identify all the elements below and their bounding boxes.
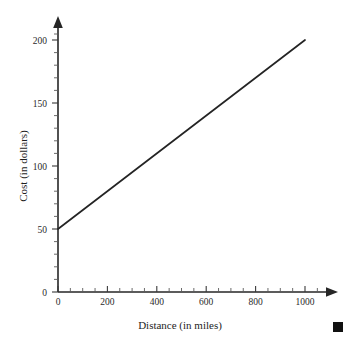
y-axis-title: Cost (in dollars) [17,130,30,202]
x-tick-label-600: 600 [199,297,214,307]
x-tick-label-1000: 1000 [296,297,315,307]
black-square-marker [333,322,343,332]
y-tick-label-150: 150 [33,99,48,109]
arrow-up-icon [53,16,63,28]
arrow-right-icon [326,287,338,297]
cost-distance-line [58,40,305,229]
x-tick-label-400: 400 [150,297,165,307]
x-tick-label-0: 0 [56,297,61,307]
x-axis-title: Distance (in miles) [138,319,222,332]
y-tick-label-200: 200 [33,36,48,46]
chart-screenshot: 0 50 100 150 200 [0,0,361,351]
y-tick-label-100: 100 [33,162,48,172]
line-chart: 0 50 100 150 200 [0,0,361,351]
x-tick-label-800: 800 [248,297,263,307]
y-tick-label-50: 50 [38,225,48,235]
y-tick-label-0: 0 [42,288,47,298]
x-tick-label-200: 200 [100,297,115,307]
